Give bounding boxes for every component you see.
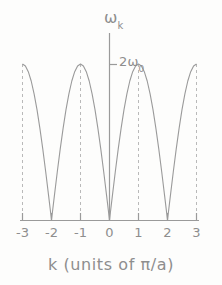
x-tick-label-2: 2 xyxy=(157,225,179,240)
y-axis-label: ωk xyxy=(104,8,124,29)
x-tick-label--1: -1 xyxy=(70,225,92,240)
plot-canvas xyxy=(0,0,222,285)
y-tick-label-2omega0: 2ω0 xyxy=(119,54,145,72)
x-tick-label--3: -3 xyxy=(12,225,34,240)
x-tick-label-3: 3 xyxy=(186,225,208,240)
y-tick-label-subscript: 0 xyxy=(139,64,145,74)
y-axis-label-symbol: ω xyxy=(104,8,118,27)
x-tick-label--2: -2 xyxy=(41,225,63,240)
y-tick-label-prefix: 2ω xyxy=(119,54,139,69)
x-tick-label-1: 1 xyxy=(128,225,150,240)
y-axis-label-subscript: k xyxy=(118,20,124,31)
phonon-dispersion-figure: ωk 2ω0 -3 -2 -1 0 1 2 3 k (units of π/a) xyxy=(0,0,222,285)
x-tick-label-0: 0 xyxy=(99,225,121,240)
x-axis-label: k (units of π/a) xyxy=(0,255,222,274)
